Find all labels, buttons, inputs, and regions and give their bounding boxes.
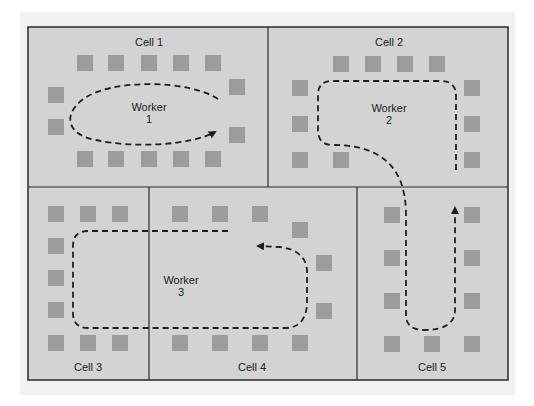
worker-2-label-line2: 2 <box>386 114 392 126</box>
cell-3-machine <box>80 335 96 351</box>
cell-3-machine <box>48 238 64 254</box>
cell-1-label: Cell 1 <box>135 36 163 48</box>
cell-2-machine <box>292 116 308 132</box>
worker-2-label-line1: Worker <box>371 102 407 114</box>
cell-2-label: Cell 2 <box>375 36 403 48</box>
cell-1-machine <box>205 55 221 71</box>
cell-4-machine <box>292 335 308 351</box>
cell-2-machine <box>464 152 480 168</box>
cell-3-machine <box>112 335 128 351</box>
cell-5-machine <box>384 207 400 223</box>
cell-layout-diagram: Cell 1 Cell 2 Cell 3 Cell 4 Cell 5 Worke… <box>0 0 534 406</box>
cell-2-machine <box>397 56 413 72</box>
cell-1-machine <box>173 55 189 71</box>
worker-3-label-line1: Worker <box>163 274 199 286</box>
cell-4-machine <box>172 335 188 351</box>
cell-4-machine <box>212 335 228 351</box>
cell-4-label: Cell 4 <box>238 361 266 373</box>
cell-1-machine <box>48 87 64 103</box>
cell-2-machine <box>429 56 445 72</box>
cell-3-machine <box>48 335 64 351</box>
cell-1-machine <box>77 151 93 167</box>
worker-1-label-line2: 1 <box>146 113 152 125</box>
cell-4-machine <box>316 255 332 271</box>
cell-2-machine <box>292 80 308 96</box>
cell-4-machine <box>172 206 188 222</box>
worker-1-label-line1: Worker <box>131 101 167 113</box>
cell-1-machine <box>229 127 245 143</box>
cell-5-machine <box>384 250 400 266</box>
cell-1-machine <box>48 119 64 135</box>
cell-3-machine <box>48 270 64 286</box>
cell-1-machine <box>108 151 124 167</box>
cell-3-machine <box>80 206 96 222</box>
cell-5-machine <box>464 207 480 223</box>
cell-5-machine <box>424 336 440 352</box>
cell-3-label: Cell 3 <box>74 361 102 373</box>
cell-1-machine <box>205 151 221 167</box>
cell-3-machine <box>112 206 128 222</box>
cell-4-machine <box>252 206 268 222</box>
cell-4-machine <box>292 222 308 238</box>
cell-5-machine <box>464 336 480 352</box>
cell-1-machine <box>141 151 157 167</box>
cell-5-machine <box>464 293 480 309</box>
cell-3-machine <box>48 302 64 318</box>
cell-1-machine <box>173 151 189 167</box>
cell-1-machine <box>229 79 245 95</box>
cell-4-machine <box>212 206 228 222</box>
worker-3-label-line2: 3 <box>178 286 184 298</box>
cell-5-machine <box>464 250 480 266</box>
cell-2-machine <box>365 56 381 72</box>
cell-3-machine <box>48 206 64 222</box>
cell-5-machine <box>384 336 400 352</box>
cell-2-machine <box>292 152 308 168</box>
cell-5-machine <box>384 293 400 309</box>
cell-1-machine <box>141 55 157 71</box>
cell-2-machine <box>333 152 349 168</box>
cell-2-machine <box>464 116 480 132</box>
cell-4-machine <box>252 335 268 351</box>
cell-4-machine <box>316 303 332 319</box>
cell-2-machine <box>464 80 480 96</box>
cell-2-machine <box>333 56 349 72</box>
cell-1-machine <box>108 55 124 71</box>
cell-1-machine <box>77 55 93 71</box>
cell-5-label: Cell 5 <box>418 361 446 373</box>
